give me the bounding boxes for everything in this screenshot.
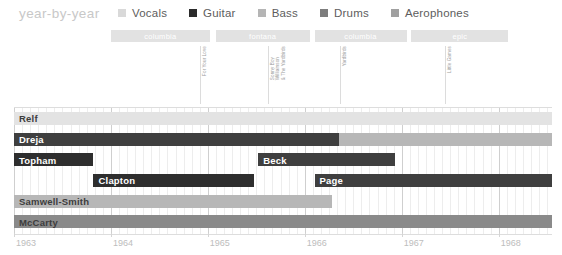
member-name-label: Clapton [98,175,135,186]
timeline-bar[interactable]: Samwell-Smith [14,195,332,208]
axis-tick [111,233,112,237]
axis-tick-label: 1966 [307,238,327,248]
release-marker-layer: For Your LoveSonny BoyWilliamson& The Ya… [0,44,562,104]
member-name-label: McCarty [19,216,58,227]
legend-label: Vocals [132,7,167,19]
release-marker-line: For Your Love [200,46,201,104]
release-marker-line: Yardbirds [340,46,341,104]
record-label-band[interactable]: columbia [315,30,407,42]
timeline-row: TophamBeck [14,153,552,166]
timeline-bar[interactable]: Relf [14,112,552,125]
axis-tick-label: 1968 [501,238,521,248]
axis-tick [208,233,209,237]
legend-swatch-icon [118,9,126,17]
record-label-band[interactable]: columbia [111,30,210,42]
legend-swatch-icon [258,9,266,17]
timeline-bar[interactable]: Page [315,174,552,187]
legend-swatch-icon [391,9,399,17]
timeline-bar[interactable] [339,133,552,146]
legend-label: Drums [334,7,369,19]
axis-tick [14,233,15,237]
chart-header: year-by-year VocalsGuitarBassDrumsAeroph… [0,0,562,28]
timeline-bar[interactable]: Clapton [93,174,254,187]
timeline-plot: RelfDrejaTophamBeckClaptonPageSamwell-Sm… [14,107,552,235]
legend-swatch-icon [320,9,328,17]
legend-swatch-icon [189,9,197,17]
legend-item-aerophones[interactable]: Aerophones [391,7,469,19]
axis-tick [499,233,500,237]
axis-tick-label: 1967 [404,238,424,248]
record-label-band[interactable]: fontana [216,30,310,42]
legend-item-guitar[interactable]: Guitar [189,7,236,19]
release-title-label[interactable]: Little Games [447,46,452,73]
timeline-bar[interactable]: Beck [258,153,395,166]
timeline-row: Samwell-Smith [14,195,552,208]
timeline-row: McCarty [14,215,552,228]
timeline-bar[interactable]: McCarty [14,215,552,228]
timeline-row: Dreja [14,133,552,146]
legend: VocalsGuitarBassDrumsAerophones [118,7,491,19]
axis-tick-label: 1963 [16,238,36,248]
legend-item-bass[interactable]: Bass [258,7,298,19]
timeline-bar[interactable]: Topham [14,153,93,166]
legend-label: Guitar [203,7,236,19]
member-name-label: Topham [19,154,56,165]
axis-tick [402,233,403,237]
timeline-row: Relf [14,112,552,125]
axis-tick [305,233,306,237]
member-name-label: Relf [19,113,38,124]
member-name-label: Dreja [19,134,44,145]
member-name-label: Beck [263,154,287,165]
axis-tick-label: 1964 [113,238,133,248]
release-title-label[interactable]: Sonny BoyWilliamson& The Yardbirds [270,46,286,80]
release-title-label[interactable]: Yardbirds [342,46,347,66]
legend-label: Aerophones [405,7,469,19]
record-label-band[interactable]: epic [411,30,508,42]
legend-item-vocals[interactable]: Vocals [118,7,167,19]
member-name-label: Samwell-Smith [19,196,89,207]
legend-label: Bass [272,7,298,19]
page-title: year-by-year [19,6,100,21]
release-marker-line: Sonny BoyWilliamson& The Yardbirds [268,46,269,104]
x-axis: 196319641965196619671968 [14,233,552,255]
release-marker-line: Little Games [445,46,446,104]
timeline-row: ClaptonPage [14,174,552,187]
member-name-label: Page [320,175,344,186]
axis-tick-label: 1965 [210,238,230,248]
record-label-band-row: columbiafontanacolumbiaepic [0,30,562,42]
legend-item-drums[interactable]: Drums [320,7,369,19]
timeline-bar[interactable]: Dreja [14,133,339,146]
release-title-label[interactable]: For Your Love [202,46,207,76]
